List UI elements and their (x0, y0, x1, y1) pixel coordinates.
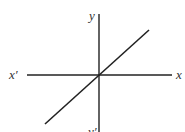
x-axis-label: x (176, 68, 182, 81)
y-prime-axis-label: y′ (88, 125, 97, 132)
line-y-equals-x (45, 30, 149, 124)
diagram: y x′ x y′ (0, 0, 185, 132)
y-axis-label: y (89, 9, 95, 22)
x-prime-axis-label: x′ (9, 68, 18, 81)
